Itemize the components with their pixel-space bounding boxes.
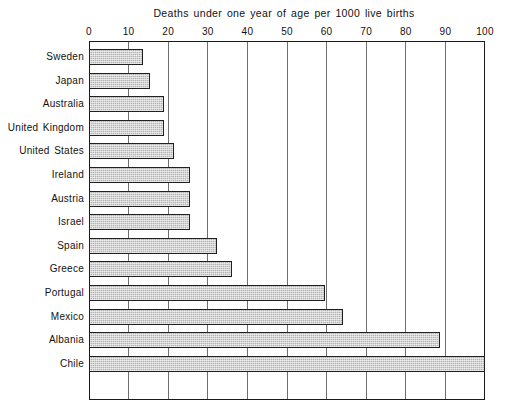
bar-ireland [89, 167, 190, 183]
category-label-united-kingdom: United Kingdom [8, 122, 84, 133]
category-label-united-states: United States [19, 145, 84, 156]
bar-australia [89, 96, 164, 112]
x-tick-label-60: 60 [321, 26, 333, 37]
x-tick-label-30: 30 [202, 26, 214, 37]
bar-spain [89, 238, 217, 254]
infant-mortality-bar-chart: Deaths under one year of age per 1000 li… [0, 0, 506, 416]
bar-japan [89, 73, 150, 89]
category-label-greece: Greece [50, 263, 84, 274]
x-tick-label-0: 0 [86, 26, 92, 37]
category-label-spain: Spain [57, 240, 84, 251]
bar-mexico [89, 309, 343, 325]
x-tick-label-40: 40 [242, 26, 254, 37]
category-label-chile: Chile [60, 358, 84, 369]
x-tick-label-90: 90 [440, 26, 452, 37]
category-labels: SwedenJapanAustraliaUnited KingdomUnited… [0, 41, 84, 400]
bar-sweden [89, 49, 143, 65]
category-label-japan: Japan [56, 75, 85, 86]
category-label-mexico: Mexico [51, 311, 84, 322]
x-axis-tick-labels: 0102030405060708090100 [0, 26, 506, 40]
chart-title-text: Deaths under one year of age per 1000 li… [153, 7, 414, 19]
chart-title: Deaths under one year of age per 1000 li… [0, 7, 506, 19]
bar-chile [89, 356, 485, 372]
category-label-austria: Austria [51, 193, 84, 204]
x-tick-label-50: 50 [281, 26, 293, 37]
x-tick-label-70: 70 [360, 26, 372, 37]
category-label-albania: Albania [49, 334, 84, 345]
category-label-ireland: Ireland [52, 169, 84, 180]
x-tick-label-10: 10 [123, 26, 135, 37]
bar-israel [89, 214, 190, 230]
category-label-australia: Australia [43, 98, 84, 109]
bar-united-states [89, 143, 174, 159]
category-label-sweden: Sweden [46, 51, 84, 62]
bar-albania [89, 332, 440, 348]
category-label-israel: Israel [58, 216, 84, 227]
bar-portugal [89, 285, 325, 301]
category-label-portugal: Portugal [45, 287, 84, 298]
x-tick-label-100: 100 [476, 26, 494, 37]
x-tick-label-20: 20 [162, 26, 174, 37]
bar-austria [89, 191, 190, 207]
x-tick-label-80: 80 [400, 26, 412, 37]
bars-layer [89, 41, 485, 400]
bar-greece [89, 261, 232, 277]
bar-united-kingdom [89, 120, 164, 136]
